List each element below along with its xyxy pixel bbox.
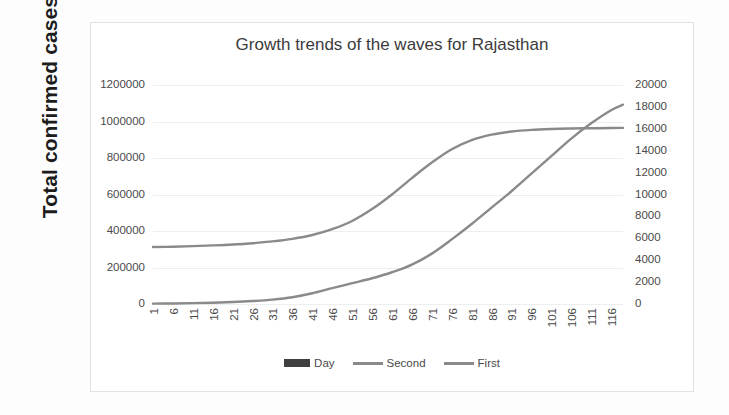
left-axis-tick-labels: 020000040000060000080000010000001200000 — [91, 85, 149, 304]
right-axis-tick: 12000 — [627, 167, 685, 179]
x-axis-tick-labels: 1611162126313641465156616671768186919610… — [153, 308, 623, 354]
x-axis-tick: 86 — [488, 308, 500, 321]
x-axis-tick: 96 — [527, 308, 539, 321]
left-axis-tick: 1000000 — [91, 116, 149, 128]
x-axis-tick: 91 — [507, 308, 519, 321]
x-axis-tick: 46 — [328, 308, 340, 321]
legend-swatch-icon — [353, 362, 383, 365]
x-axis-tick: 26 — [249, 308, 261, 321]
left-axis-tick: 1200000 — [91, 79, 149, 91]
x-axis-tick: 61 — [388, 308, 400, 321]
x-axis-tick: 111 — [587, 308, 599, 325]
series-lines — [153, 85, 623, 304]
legend-swatch-icon — [444, 362, 474, 365]
x-axis-tick: 101 — [547, 308, 559, 327]
x-axis-tick: 21 — [229, 308, 241, 321]
y-axis-title: Total confirmed cases — [38, 0, 62, 237]
x-axis-tick: 56 — [368, 308, 380, 321]
chart-frame: Growth trends of the waves for Rajasthan… — [90, 22, 694, 392]
x-axis-tick: 31 — [268, 308, 280, 321]
legend-swatch-icon — [284, 359, 310, 367]
left-axis-tick: 600000 — [91, 189, 149, 201]
x-axis-tick: 51 — [348, 308, 360, 321]
right-axis-tick: 10000 — [627, 189, 685, 201]
series-line-first — [153, 128, 623, 247]
right-axis-tick: 20000 — [627, 79, 685, 91]
chart-screenshot: Total confirmed cases Growth trends of t… — [0, 0, 729, 415]
plot-area — [153, 85, 623, 304]
x-axis-tick: 106 — [567, 308, 579, 327]
x-axis-tick: 1 — [149, 308, 161, 314]
gridline — [153, 304, 623, 305]
right-axis-tick: 16000 — [627, 123, 685, 135]
legend-item-first[interactable]: First — [444, 357, 500, 369]
series-line-second — [153, 105, 623, 304]
x-axis-tick: 36 — [288, 308, 300, 321]
chart-title: Growth trends of the waves for Rajasthan — [91, 35, 693, 55]
right-axis-tick: 18000 — [627, 101, 685, 113]
chart-legend: DaySecondFirst — [91, 357, 693, 369]
right-axis-tick: 4000 — [627, 254, 685, 266]
right-axis-tick: 2000 — [627, 276, 685, 288]
left-axis-tick: 400000 — [91, 225, 149, 237]
legend-label: Day — [314, 357, 334, 369]
x-axis-tick: 41 — [308, 308, 320, 321]
x-axis-tick: 76 — [448, 308, 460, 321]
x-axis-tick: 81 — [468, 308, 480, 321]
x-axis-tick: 116 — [607, 308, 619, 326]
legend-item-day[interactable]: Day — [284, 357, 334, 369]
legend-label: Second — [387, 357, 426, 369]
legend-item-second[interactable]: Second — [353, 357, 426, 369]
x-axis-tick: 66 — [408, 308, 420, 321]
left-axis-tick: 200000 — [91, 262, 149, 274]
right-axis-tick: 6000 — [627, 233, 685, 245]
left-axis-tick: 800000 — [91, 152, 149, 164]
x-axis-tick: 6 — [169, 308, 181, 314]
legend-label: First — [478, 357, 500, 369]
right-axis-tick: 14000 — [627, 145, 685, 157]
x-axis-tick: 71 — [428, 308, 440, 321]
x-axis-tick: 16 — [209, 308, 221, 321]
right-axis-tick: 0 — [627, 298, 685, 310]
right-axis-tick: 8000 — [627, 211, 685, 223]
left-axis-tick: 0 — [91, 298, 149, 310]
x-axis-tick: 11 — [189, 308, 201, 320]
right-axis-tick-labels: 0200040006000800010000120001400016000180… — [627, 85, 685, 304]
